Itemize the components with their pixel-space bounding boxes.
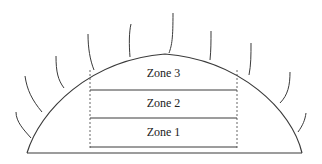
zone-2-label: Zone 2 <box>90 96 237 110</box>
dome-diagram <box>0 0 322 164</box>
hair-1 <box>16 112 31 138</box>
hair-6 <box>169 13 173 53</box>
zone-3-label: Zone 3 <box>90 66 237 80</box>
hair-3 <box>56 56 64 88</box>
hair-7 <box>210 31 211 60</box>
zone-1-label: Zone 1 <box>90 125 237 139</box>
hair-4 <box>88 34 94 70</box>
hair-5 <box>129 24 131 57</box>
hair-10 <box>298 113 306 132</box>
hair-2 <box>25 76 42 112</box>
hair-9 <box>280 72 290 103</box>
hair-8 <box>249 43 251 75</box>
